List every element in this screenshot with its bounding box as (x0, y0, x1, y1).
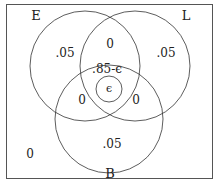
region-l-only: .05 (156, 46, 175, 60)
region-all-three: .85-ϵ (92, 62, 122, 76)
region-outside: 0 (26, 147, 34, 161)
region-e-only: .05 (55, 46, 74, 60)
region-e-and-b: 0 (78, 93, 86, 107)
region-l-and-b: 0 (132, 93, 140, 107)
set-label-l: L (182, 8, 191, 23)
region-e-and-l: 0 (106, 37, 114, 51)
region-epsilon: ϵ (106, 82, 112, 95)
region-b-only: .05 (102, 137, 121, 151)
set-label-e: E (31, 8, 41, 23)
set-label-b: B (105, 166, 115, 181)
